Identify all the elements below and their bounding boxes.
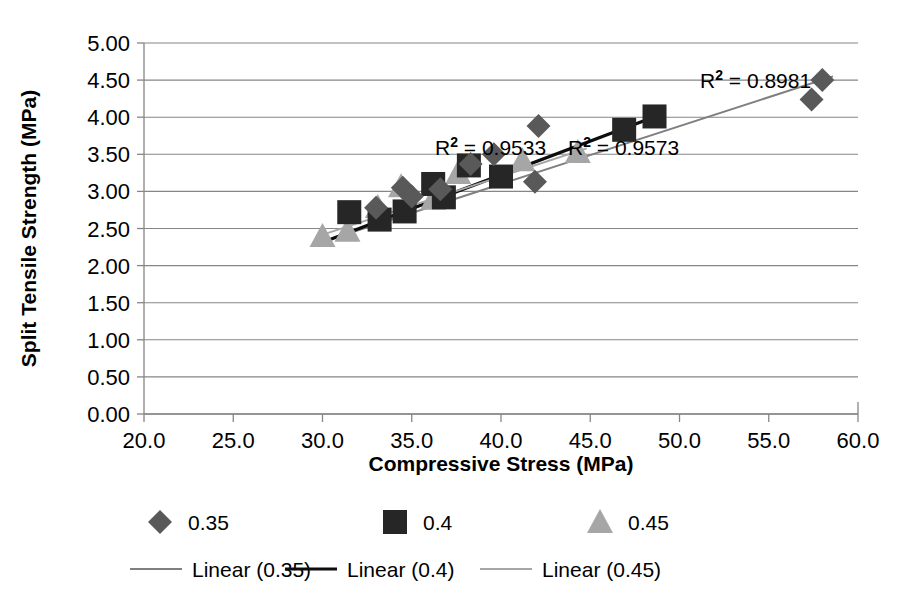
y-tick-label: 1.00 xyxy=(87,328,130,353)
data-point-0.45 xyxy=(310,223,336,247)
legend-marker-0.45 xyxy=(587,509,613,533)
legend-label-0.45: 0.45 xyxy=(628,511,669,534)
legend-marker-0.4 xyxy=(383,510,407,534)
x-tick-label: 40.0 xyxy=(480,428,523,453)
y-tick-label: 4.00 xyxy=(87,105,130,130)
x-tick-label: 55.0 xyxy=(747,428,790,453)
y-axis-tick-labels: 0.000.501.001.502.002.503.003.504.004.50… xyxy=(87,31,130,427)
x-tick-label: 50.0 xyxy=(658,428,701,453)
legend-line-label-Linear (0.45): Linear (0.45) xyxy=(542,558,661,581)
y-tick-label: 4.50 xyxy=(87,68,130,93)
data-point-0.4 xyxy=(337,200,361,224)
x-tick-label: 30.0 xyxy=(301,428,344,453)
y-axis-title: Split Tensile Strength (MPa) xyxy=(17,90,40,367)
legend-marker-0.35 xyxy=(148,510,172,534)
gridlines-group xyxy=(144,43,858,414)
x-tick-label: 35.0 xyxy=(390,428,433,453)
r-squared-annotation: R2 = 0.9533 xyxy=(435,134,546,159)
chart-canvas: 0.000.501.001.502.002.503.003.504.004.50… xyxy=(0,0,914,607)
r-squared-annotations: R2 = 0.8981R2 = 0.9533R2 = 0.9573 xyxy=(435,67,811,159)
x-axis-title: Compressive Stress (MPa) xyxy=(369,452,634,475)
data-point-0.4 xyxy=(489,165,513,189)
x-tick-label: 20.0 xyxy=(123,428,166,453)
legend-label-0.4: 0.4 xyxy=(423,511,453,534)
scatter-chart: 0.000.501.001.502.002.503.003.504.004.50… xyxy=(0,0,914,607)
x-axis-tick-labels: 20.025.030.035.040.045.050.055.060.0 xyxy=(123,428,880,453)
y-tick-label: 3.50 xyxy=(87,142,130,167)
y-tick-label: 1.50 xyxy=(87,291,130,316)
data-point-0.35 xyxy=(523,170,547,194)
legend-label-0.35: 0.35 xyxy=(188,511,229,534)
y-tick-label: 2.50 xyxy=(87,217,130,242)
x-tick-label: 25.0 xyxy=(212,428,255,453)
chart-legend: 0.350.40.45Linear (0.35)Linear (0.4)Line… xyxy=(130,509,669,581)
legend-line-label-Linear (0.4): Linear (0.4) xyxy=(347,558,454,581)
tick-marks-group xyxy=(137,43,858,422)
y-tick-label: 5.00 xyxy=(87,31,130,56)
y-tick-label: 3.00 xyxy=(87,179,130,204)
x-tick-label: 60.0 xyxy=(837,428,880,453)
x-tick-label: 45.0 xyxy=(569,428,612,453)
data-point-0.35 xyxy=(810,68,834,92)
y-tick-label: 0.50 xyxy=(87,365,130,390)
data-point-0.4 xyxy=(643,104,667,128)
y-tick-label: 0.00 xyxy=(87,402,130,427)
y-tick-label: 2.00 xyxy=(87,254,130,279)
r-squared-annotation: R2 = 0.8981 xyxy=(700,67,811,92)
